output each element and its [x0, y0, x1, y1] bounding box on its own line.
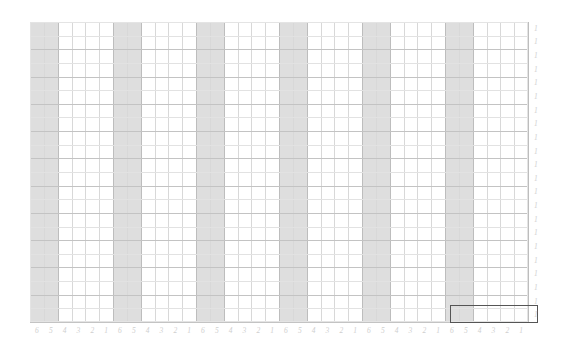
y-tick-label: 1 — [534, 147, 546, 157]
gridline-horizontal-major — [30, 213, 528, 214]
y-tick-label: 1 — [534, 297, 546, 307]
x-tick-label: 6 — [279, 326, 293, 336]
gridline-horizontal-major — [30, 240, 528, 241]
x-tick-label: 6 — [362, 326, 376, 336]
x-tick-label: 2 — [85, 326, 99, 336]
x-tick-label: 4 — [141, 326, 155, 336]
x-tick-label: 1 — [182, 326, 196, 336]
y-tick-label: 1 — [534, 78, 546, 88]
x-tick-label: 6 — [196, 326, 210, 336]
x-tick-label: 4 — [473, 326, 487, 336]
x-tick-label: 2 — [168, 326, 182, 336]
x-tick-label: 3 — [320, 326, 334, 336]
x-tick-label: 5 — [459, 326, 473, 336]
x-tick-label: 3 — [237, 326, 251, 336]
x-tick-label: 5 — [376, 326, 390, 336]
gridline-horizontal-major — [30, 295, 528, 296]
x-tick-label: 2 — [334, 326, 348, 336]
y-tick-label: 1 — [534, 269, 546, 279]
x-tick-label: 2 — [500, 326, 514, 336]
y-tick-label: 1 — [534, 228, 546, 238]
y-tick-label: 1 — [534, 24, 546, 34]
gridline-horizontal-minor — [30, 145, 528, 146]
gridline-horizontal-minor — [30, 281, 528, 282]
x-tick-label: 1 — [514, 326, 528, 336]
y-tick-label: 1 — [534, 242, 546, 252]
x-tick-label: 3 — [403, 326, 417, 336]
figure-canvas: 654321654321654321654321654321654321 111… — [0, 0, 573, 355]
x-tick-label: 1 — [431, 326, 445, 336]
y-tick-label: 1 — [534, 160, 546, 170]
gridline-horizontal-minor — [30, 63, 528, 64]
gridline-horizontal-major — [30, 104, 528, 105]
gridline-horizontal-major — [30, 49, 528, 50]
y-tick-label: 1 — [534, 283, 546, 293]
x-tick-label: 1 — [265, 326, 279, 336]
gridline-horizontal-minor — [30, 227, 528, 228]
x-tick-label: 5 — [293, 326, 307, 336]
y-tick-label: 1 — [534, 119, 546, 129]
y-tick-label: 1 — [534, 201, 546, 211]
x-tick-label: 6 — [113, 326, 127, 336]
gridline-horizontal-major — [30, 22, 528, 23]
y-tick-label: 1 — [534, 133, 546, 143]
x-tick-label: 3 — [154, 326, 168, 336]
selection-rectangle[interactable] — [450, 305, 538, 323]
x-tick-label: 4 — [390, 326, 404, 336]
y-tick-label: 1 — [534, 51, 546, 61]
gridline-horizontal-minor — [30, 172, 528, 173]
x-tick-label: 2 — [417, 326, 431, 336]
y-tick-label: 1 — [534, 174, 546, 184]
gridline-horizontal-major — [30, 77, 528, 78]
y-tick-label: 1 — [534, 310, 546, 320]
gridline-horizontal-minor — [30, 117, 528, 118]
y-tick-label: 1 — [534, 65, 546, 75]
gridline-horizontal-minor — [30, 199, 528, 200]
x-tick-label: 6 — [30, 326, 44, 336]
x-tick-label: 4 — [224, 326, 238, 336]
x-tick-label: 3 — [71, 326, 85, 336]
x-tick-label: 2 — [251, 326, 265, 336]
gridline-horizontal-major — [30, 158, 528, 159]
x-tick-label: 5 — [127, 326, 141, 336]
x-tick-label: 5 — [44, 326, 58, 336]
x-tick-label: 4 — [58, 326, 72, 336]
y-tick-label: 1 — [534, 215, 546, 225]
y-tick-label: 1 — [534, 187, 546, 197]
gridline-horizontal-major — [30, 267, 528, 268]
x-tick-label: 5 — [210, 326, 224, 336]
gridline-horizontal-minor — [30, 254, 528, 255]
gridline-horizontal-major — [30, 131, 528, 132]
gridline-horizontal-major — [30, 186, 528, 187]
y-tick-label: 1 — [534, 256, 546, 266]
y-tick-label: 1 — [534, 37, 546, 47]
x-tick-label: 1 — [99, 326, 113, 336]
x-tick-label: 6 — [445, 326, 459, 336]
plot-area[interactable] — [30, 22, 528, 322]
x-tick-label: 4 — [307, 326, 321, 336]
y-tick-label: 1 — [534, 92, 546, 102]
x-tick-label: 3 — [486, 326, 500, 336]
gridline-horizontal-minor — [30, 36, 528, 37]
y-tick-label: 1 — [534, 106, 546, 116]
gridline-horizontal-minor — [30, 90, 528, 91]
gridline-vertical-major — [528, 22, 529, 322]
x-tick-label: 1 — [348, 326, 362, 336]
